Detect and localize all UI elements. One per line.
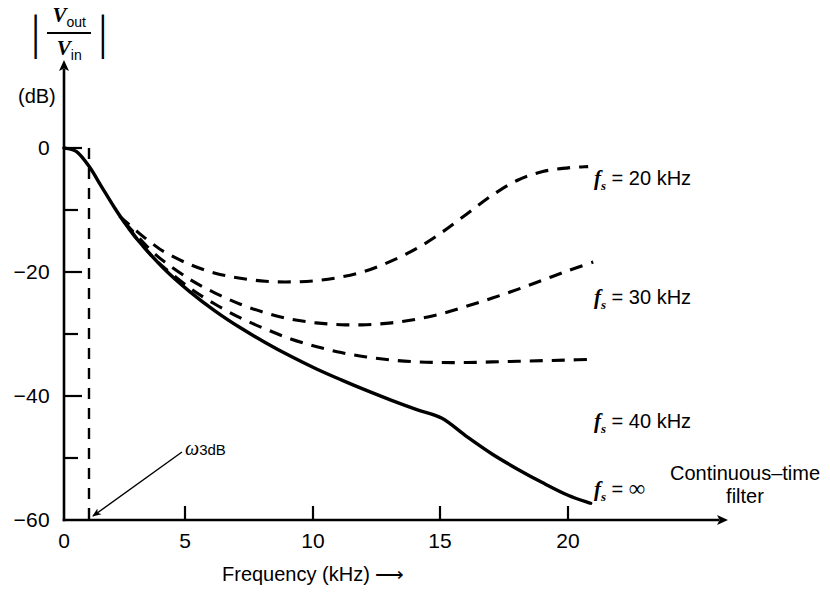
curve-fs-30-khz	[124, 222, 593, 325]
fs-eq-30: = 30 kHz	[606, 286, 691, 308]
curve-fs-40-khz	[130, 229, 594, 363]
x-tick-label-20: 20	[548, 530, 588, 551]
continuous-time-filter-label: Continuous–time filter	[655, 462, 830, 508]
y-tick-label-0: 0	[0, 137, 50, 158]
omega-3db-arrow	[93, 452, 182, 516]
fs-italic-30: fs	[594, 285, 606, 309]
curve-label-fs-infinity: fs = ∞	[594, 477, 645, 503]
continuous-time-line-1: Continuous–time	[655, 462, 830, 485]
fs-italic-20: fs	[594, 166, 606, 190]
x-axis-title-arrow-icon: ⟶	[375, 563, 402, 585]
omega-3db-label: ω3dB	[185, 438, 226, 458]
fs-italic-inf: fs	[594, 477, 606, 501]
y-tick-label-minus40: −40	[0, 385, 50, 406]
continuous-time-line-2: filter	[655, 485, 830, 508]
fs-italic-40: fs	[594, 409, 606, 433]
infinity-symbol: ∞	[629, 476, 645, 501]
curve-label-fs-40khz: fs = 40 kHz	[594, 411, 691, 435]
omega-subscript: 3dB	[199, 441, 226, 458]
curve-label-fs-20khz: fs = 20 kHz	[594, 168, 691, 192]
x-tick-label-5: 5	[165, 530, 205, 551]
data-curves-group	[64, 148, 593, 503]
y-tick-label-minus20: −20	[0, 261, 50, 282]
fs-eq-20: = 20 kHz	[606, 167, 691, 189]
fs-eq-inf: =	[606, 478, 629, 500]
x-tick-label-0: 0	[44, 530, 84, 551]
omega-symbol: ω	[185, 437, 199, 459]
curve-fs-continuous-time-filter	[64, 148, 591, 503]
x-axis-title-group: Frequency (kHz) ⟶	[222, 564, 402, 584]
x-tick-label-10: 10	[293, 530, 333, 551]
curve-label-fs-30khz: fs = 30 kHz	[594, 287, 691, 311]
fs-eq-40: = 40 kHz	[606, 410, 691, 432]
y-tick-label-minus60: −60	[0, 509, 50, 530]
x-tick-label-15: 15	[420, 530, 460, 551]
x-axis-title-text: Frequency (kHz)	[222, 563, 370, 585]
x-axis-ticks	[185, 506, 568, 520]
figure-container: | Vout Vin | (dB)	[0, 0, 830, 595]
curve-fs-20-khz	[119, 167, 588, 282]
y-axis-ticks	[64, 148, 82, 458]
